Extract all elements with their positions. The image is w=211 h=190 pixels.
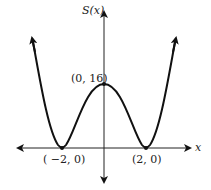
y-axis-label: S(x) [82, 4, 104, 17]
x-axis-label: x [195, 141, 201, 154]
chart-canvas [0, 0, 211, 190]
left-min-point [60, 146, 64, 150]
peak-label: (0, 16) [71, 72, 108, 85]
left-min-label: ( −2, 0) [43, 153, 85, 166]
right-min-label: (2, 0) [132, 153, 162, 166]
right-min-point [144, 146, 148, 150]
